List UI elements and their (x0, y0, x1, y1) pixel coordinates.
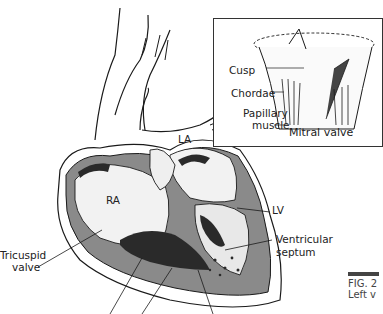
label-muscle: muscle (252, 119, 290, 131)
mitral-valve-inset: Cusp Chordae Papillary muscle Mitral val… (213, 18, 383, 147)
caption-rule (348, 272, 379, 276)
label-ra: RA (106, 194, 120, 206)
inset-title: Mitral valve (289, 127, 353, 139)
label-septum: septum (276, 246, 316, 258)
label-la: LA (178, 133, 191, 145)
label-valve: valve (12, 261, 40, 273)
label-lv: LV (272, 204, 284, 216)
label-cusp: Cusp (229, 64, 255, 76)
figure-caption: FIG. 2 Left v (348, 278, 377, 300)
label-tricuspid: Tricuspid (0, 249, 46, 261)
label-chordae: Chordae (231, 87, 275, 99)
label-ventricular: Ventricular (276, 233, 333, 245)
figure-number: FIG. 2 (348, 278, 377, 289)
figure-caption-text: Left v (348, 289, 377, 300)
label-papillary: Papillary (243, 107, 288, 119)
